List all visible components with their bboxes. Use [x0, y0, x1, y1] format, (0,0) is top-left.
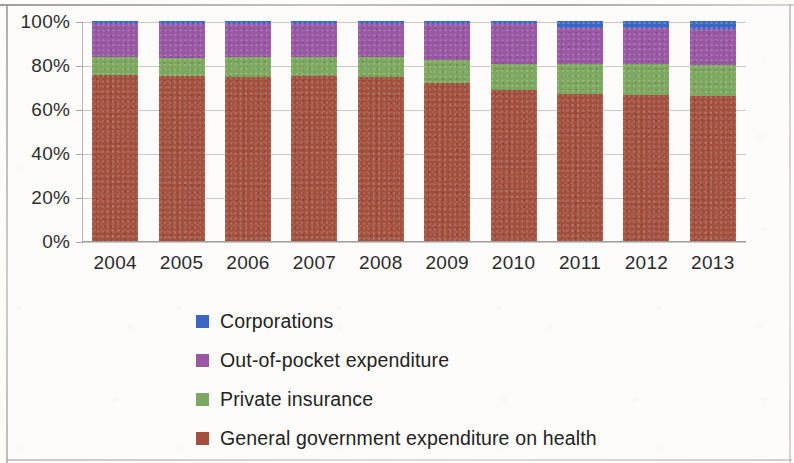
x-axis-tick-label: 2011 [545, 252, 615, 274]
bar-segment [557, 64, 603, 94]
x-axis-tick-label: 2007 [279, 252, 349, 274]
bar-segment [424, 24, 470, 59]
legend-swatch-icon [196, 315, 209, 328]
bar-2012 [623, 21, 669, 241]
x-axis-tick-label: 2012 [611, 252, 681, 274]
bar-segment [623, 21, 669, 28]
scanned-chart-page: 0%20%40%60%80%100% 200420052006200720082… [0, 0, 794, 463]
bar-segment [623, 95, 669, 241]
x-axis-tick-label: 2005 [147, 252, 217, 274]
legend-item[interactable]: Out-of-pocket expenditure [196, 341, 756, 380]
bar-segment [623, 64, 669, 95]
bar-segment [690, 96, 736, 241]
x-axis-tick-label: 2009 [412, 252, 482, 274]
x-axis-tick-label: 2013 [678, 252, 748, 274]
bar-segment [690, 21, 736, 29]
bar-2013 [690, 21, 736, 241]
y-axis-tick [76, 154, 83, 155]
legend-swatch-icon [196, 354, 209, 367]
gridline [82, 242, 746, 243]
legend-item[interactable]: Corporations [196, 302, 756, 341]
bar-2007 [291, 21, 337, 241]
legend-label: Private insurance [220, 388, 373, 411]
bar-segment [225, 24, 271, 57]
bar-segment [159, 58, 205, 76]
x-axis-tick-label: 2008 [346, 252, 416, 274]
bar-segment [424, 83, 470, 241]
bar-segment [557, 94, 603, 241]
legend-swatch-icon [196, 432, 209, 445]
y-axis-tick-label: 20% [0, 187, 70, 209]
x-axis-tick-label: 2004 [80, 252, 150, 274]
legend-label: General government expenditure on health [220, 427, 597, 450]
bar-segment [491, 90, 537, 241]
y-axis-tick-label: 100% [0, 11, 70, 33]
chart-legend: CorporationsOut-of-pocket expenditurePri… [196, 302, 756, 458]
bar-2009 [424, 21, 470, 241]
bar-2010 [491, 21, 537, 241]
y-axis-tick-label: 0% [0, 231, 70, 253]
legend-item[interactable]: General government expenditure on health [196, 419, 756, 458]
y-axis-line [82, 22, 83, 242]
y-axis-tick [76, 66, 83, 67]
bar-segment [92, 24, 138, 57]
bar-segment [92, 57, 138, 75]
y-axis-tick [76, 242, 83, 243]
page-border-top [0, 4, 794, 6]
bar-segment [491, 64, 537, 90]
y-axis-tick [76, 22, 83, 23]
legend-label: Corporations [220, 310, 333, 333]
bar-segment [491, 24, 537, 64]
page-border-right [789, 4, 791, 463]
x-axis-tick-label: 2006 [213, 252, 283, 274]
bar-segment [291, 76, 337, 241]
bar-segment [358, 77, 404, 241]
bar-segment [159, 24, 205, 58]
bar-segment [225, 77, 271, 241]
bar-segment [225, 57, 271, 77]
bar-segment [623, 28, 669, 64]
bar-2008 [358, 21, 404, 241]
y-axis-tick [76, 110, 83, 111]
bar-segment [159, 76, 205, 241]
legend-label: Out-of-pocket expenditure [220, 349, 449, 372]
bar-segment [291, 24, 337, 57]
bar-segment [557, 21, 603, 28]
y-axis-tick-label: 40% [0, 143, 70, 165]
y-axis-tick [76, 198, 83, 199]
legend-swatch-icon [196, 393, 209, 406]
y-axis-tick-label: 60% [0, 99, 70, 121]
bar-segment [92, 75, 138, 241]
bar-2006 [225, 21, 271, 241]
bar-2004 [92, 21, 138, 241]
bar-segment [690, 65, 736, 96]
x-axis-tick-label: 2010 [479, 252, 549, 274]
bar-segment [557, 28, 603, 64]
page-border-bottom [6, 459, 792, 461]
bar-segment [291, 57, 337, 76]
bar-segment [358, 24, 404, 57]
legend-item[interactable]: Private insurance [196, 380, 756, 419]
bar-segment [690, 29, 736, 65]
bar-segment [424, 60, 470, 83]
y-axis-tick-label: 80% [0, 55, 70, 77]
bar-2005 [159, 21, 205, 241]
bar-segment [358, 57, 404, 77]
chart-plot-area [82, 22, 746, 242]
bar-2011 [557, 21, 603, 241]
